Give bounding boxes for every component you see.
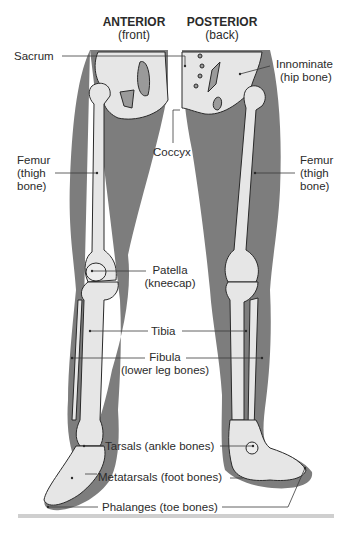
label-metatarsals: Metatarsals (foot bones)	[98, 471, 222, 484]
label-innominate-line1: Innominate	[276, 58, 333, 71]
label-innominate-line2: (hip bone)	[276, 71, 333, 84]
label-coccyx: Coccyx	[153, 146, 191, 159]
label-femur-left-line2: (thigh	[17, 167, 50, 180]
footer-divider	[18, 514, 334, 518]
label-femur-left: Femur (thigh bone)	[17, 154, 50, 193]
label-femur-left-line1: Femur	[17, 154, 50, 167]
label-femur-right-line1: Femur	[300, 154, 333, 167]
label-femur-left-line3: bone)	[17, 180, 50, 193]
label-tibia: Tibia	[151, 325, 176, 338]
label-femur-right-line3: bone)	[300, 180, 333, 193]
label-femur-right: Femur (thigh bone)	[300, 154, 333, 193]
label-innominate: Innominate (hip bone)	[276, 58, 333, 84]
header-posterior: POSTERIOR (back)	[182, 16, 262, 42]
header-anterior: ANTERIOR (front)	[96, 16, 172, 42]
label-fibula-line2: (lower leg bones)	[116, 364, 214, 377]
label-tarsals: Tarsals (ankle bones)	[105, 440, 214, 453]
header-anterior-sub: (front)	[96, 29, 172, 42]
label-patella: Patella (kneecap)	[140, 264, 200, 290]
label-phalanges: Phalanges (toe bones)	[102, 501, 218, 514]
label-patella-line2: (kneecap)	[140, 277, 200, 290]
skeleton-lower-limb-diagram: ANTERIOR (front) POSTERIOR (back) Sacrum…	[0, 0, 350, 534]
label-fibula: Fibula (lower leg bones)	[116, 351, 214, 377]
label-fibula-line1: Fibula	[116, 351, 214, 364]
header-posterior-sub: (back)	[182, 29, 262, 42]
label-patella-line1: Patella	[140, 264, 200, 277]
label-sacrum: Sacrum	[14, 50, 54, 63]
label-femur-right-line2: (thigh	[300, 167, 333, 180]
